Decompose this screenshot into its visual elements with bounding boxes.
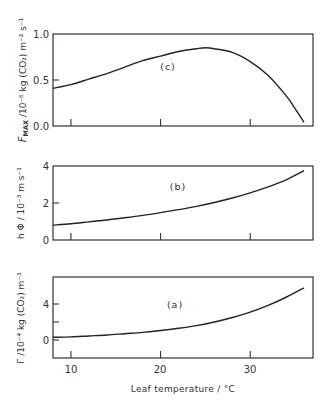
panel-c: 0.00.51.0(c) (33, 29, 313, 132)
plot-frame (53, 277, 313, 358)
y-tick-label: 0.5 (33, 75, 49, 86)
y-tick-label: 2 (43, 198, 49, 209)
panel-label: (b) (170, 181, 186, 192)
plot-frame (53, 166, 313, 240)
figure: 0.00.51.0(c)024(b)04(a)102030Leaf temper… (0, 0, 329, 401)
y-tick-label: 4 (43, 299, 49, 310)
panel-a: 04(a) (43, 277, 313, 358)
x-tick-label: 10 (65, 364, 78, 375)
x-axis-label: Leaf temperature / °C (131, 384, 235, 394)
plot-frame (53, 34, 313, 126)
x-tick-label: 20 (154, 364, 167, 375)
data-curve (53, 48, 304, 123)
x-tick-label: 30 (244, 364, 257, 375)
data-curve (53, 171, 304, 226)
y-axis-label-b: h Φ / 10⁻³ m s⁻¹ (16, 167, 26, 239)
y-tick-label: 0 (43, 235, 49, 246)
panel-label: (c) (160, 61, 176, 72)
panel-b: 024(b) (43, 161, 313, 246)
y-tick-label: 1.0 (33, 29, 49, 40)
y-axis-label-a: Γ /10⁻⁴ kg (CO₂) m⁻³ (16, 272, 26, 364)
data-curve (53, 288, 304, 338)
y-axis-label-c: FMAX /10⁻⁶ kg (CO₂) m⁻² s⁻¹ (17, 17, 30, 142)
y-tick-label: 0 (43, 335, 49, 346)
y-tick-label: 0.0 (33, 121, 49, 132)
panel-label: (a) (167, 299, 183, 310)
y-tick-label: 4 (43, 161, 49, 172)
